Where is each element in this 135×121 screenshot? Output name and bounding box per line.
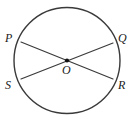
circle-diagram-svg — [0, 0, 135, 121]
geometry-figure: P Q S R O — [0, 0, 135, 121]
center-point-dot — [65, 58, 69, 62]
vertex-label-r: R — [118, 79, 125, 91]
vertex-label-s: S — [5, 79, 11, 91]
vertex-label-q: Q — [118, 32, 127, 44]
center-label-o: O — [62, 64, 71, 76]
vertex-label-p: P — [5, 32, 12, 44]
